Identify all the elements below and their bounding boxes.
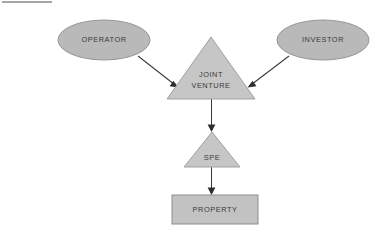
diagram-svg: OPERATOR INVESTOR JOINT VENTURE SPE PROP… <box>0 0 380 240</box>
node-investor[interactable]: INVESTOR <box>277 20 369 60</box>
joint-venture-label-line1: JOINT <box>199 70 223 79</box>
diagram-canvas: OPERATOR INVESTOR JOINT VENTURE SPE PROP… <box>0 0 380 240</box>
spe-label: SPE <box>204 153 220 162</box>
node-operator[interactable]: OPERATOR <box>58 20 150 60</box>
investor-label: INVESTOR <box>302 35 344 44</box>
arrowhead-icon <box>208 188 216 196</box>
edge-joint-venture-to-spe <box>208 99 216 132</box>
joint-venture-label-line2: VENTURE <box>191 81 230 90</box>
node-joint-venture[interactable]: JOINT VENTURE <box>167 37 255 99</box>
property-label: PROPERTY <box>193 205 238 214</box>
edge-line <box>138 56 175 85</box>
edge-spe-to-property <box>208 167 216 195</box>
node-spe[interactable]: SPE <box>184 132 240 167</box>
edge-line <box>252 56 290 85</box>
arrowhead-icon <box>208 125 216 133</box>
node-property[interactable]: PROPERTY <box>172 195 258 224</box>
operator-label: OPERATOR <box>81 35 126 44</box>
edge-investor-to-joint-venture <box>248 56 290 88</box>
edge-operator-to-joint-venture <box>138 56 179 88</box>
